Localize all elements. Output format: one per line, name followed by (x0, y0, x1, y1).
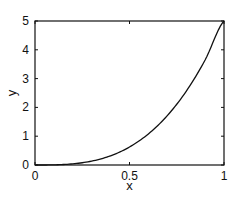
y-tick-label: 0 (22, 158, 29, 172)
x-tick-label: 0 (32, 169, 39, 183)
y-tick-label: 1 (22, 129, 29, 143)
y-axis-label: y (4, 89, 19, 96)
y-tick-label: 4 (22, 43, 29, 57)
y-tick-label: 2 (22, 100, 29, 114)
plot-area (35, 21, 224, 165)
x-tick-label: 1 (221, 169, 228, 183)
y-tick-label: 3 (22, 72, 29, 86)
y-tick-label: 5 (22, 14, 29, 28)
x-axis-label: x (126, 178, 133, 193)
chart: 00.51 012345 x y (0, 0, 237, 204)
